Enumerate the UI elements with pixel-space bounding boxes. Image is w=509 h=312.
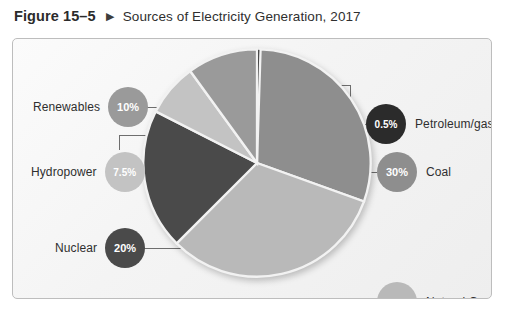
value-badge-renewables: 10% [108,87,148,127]
category-label-renewables: Renewables [33,100,100,114]
callout-natural-gas[interactable]: 32% Natural Gas [377,282,491,299]
figure-title: Sources of Electricity Generation, 2017 [123,9,361,24]
value-badge-hydropower: 7.5% [105,152,145,192]
figure-header: Figure 15–5 ▶ Sources of Electricity Gen… [0,0,509,32]
category-label-hydropower: Hydropower [31,165,97,179]
value-badge-coal: 30% [377,152,417,192]
callout-nuclear[interactable]: Nuclear 20% [55,228,145,268]
triangle-right-icon: ▶ [106,10,114,21]
category-label-nuclear: Nuclear [55,241,97,255]
callout-petroleum-gas[interactable]: 0.5% Petroleum/gas [366,104,492,144]
category-label-coal: Coal [426,165,451,179]
category-label-petroleum-gas: Petroleum/gas [415,117,492,131]
category-label-natural-gas: Natural Gas [426,295,491,299]
value-badge-natural-gas: 32% [377,282,417,299]
pie-svg [141,47,373,279]
figure-number: Figure 15–5 [14,8,96,24]
chart-frame: Renewables 10% Hydropower 7.5% Nuclear 2… [12,38,492,299]
callout-renewables[interactable]: Renewables 10% [33,87,148,127]
value-badge-petroleum-gas: 0.5% [366,104,406,144]
callout-hydropower[interactable]: Hydropower 7.5% [31,152,145,192]
callout-coal[interactable]: 30% Coal [377,152,451,192]
value-badge-nuclear: 20% [105,228,145,268]
